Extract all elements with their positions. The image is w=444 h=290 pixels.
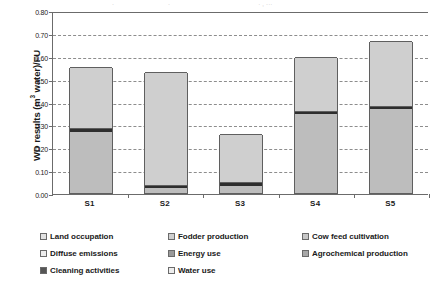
bar-segment (295, 114, 337, 193)
legend-label: Cleaning activities (50, 266, 119, 275)
legend-item[interactable]: Land occupation (40, 232, 113, 241)
legend-label: Fodder production (178, 232, 248, 241)
legend-item[interactable]: Agrochemical production (302, 249, 408, 258)
y-tick-label: 0.30 (22, 123, 48, 130)
legend-label: Energy use (178, 249, 221, 258)
x-label-s2: S2 (160, 199, 170, 208)
x-tick-mark (203, 194, 204, 198)
legend-swatch-icon (168, 250, 175, 257)
legend-item[interactable]: Cleaning activities (40, 266, 119, 275)
legend-item[interactable]: Diffuse emissions (40, 249, 118, 258)
legend-label: Agrochemical production (312, 249, 408, 258)
bar-segment (220, 182, 262, 186)
bar-slot (354, 12, 429, 194)
legend-swatch-icon (40, 250, 47, 257)
y-tick-label: 0.70 (22, 31, 48, 38)
legend-item[interactable]: Energy use (168, 249, 221, 258)
x-label-s1: S1 (85, 199, 95, 208)
x-tick-mark (279, 194, 280, 198)
legend-swatch-icon (302, 250, 309, 257)
bar-segment (295, 57, 337, 111)
legend-label: Water use (178, 266, 216, 275)
bar-s5[interactable] (369, 42, 413, 194)
chart-legend: Land occupationFodder productionCow feed… (40, 232, 430, 284)
legend-swatch-icon (168, 267, 175, 274)
bar-slot (128, 12, 203, 194)
y-axis-tick-labels: 0.000.100.200.300.400.500.600.700.80 (22, 12, 48, 195)
y-tick-label: 0.60 (22, 54, 48, 61)
bar-segment (70, 67, 112, 128)
x-tick-mark (429, 194, 430, 198)
figure-stacked-bar-chart: · · · , ··· WD results (m3 water)/FU 0.0… (0, 0, 444, 290)
bar-segment (220, 134, 262, 182)
legend-item[interactable]: Water use (168, 266, 216, 275)
x-tick-mark (354, 194, 355, 198)
bar-s2[interactable] (144, 73, 188, 194)
legend-swatch-icon (302, 233, 309, 240)
bar-slot (53, 12, 128, 194)
bar-segment (370, 109, 412, 193)
y-tick-mark (49, 195, 53, 196)
legend-swatch-icon (168, 233, 175, 240)
legend-swatch-icon (40, 267, 47, 274)
legend-label: Cow feed cultivation (312, 232, 389, 241)
bars-group (53, 12, 428, 194)
legend-label: Diffuse emissions (50, 249, 118, 258)
y-tick-label: 0.00 (22, 192, 48, 199)
bar-s3[interactable] (219, 135, 263, 194)
bar-segment (220, 186, 262, 193)
bar-segment (70, 132, 112, 193)
bar-slot (203, 12, 278, 194)
x-label-s3: S3 (235, 199, 245, 208)
y-tick-label: 0.80 (22, 9, 48, 16)
bar-segment (70, 128, 112, 132)
axes-region (52, 12, 428, 195)
y-tick-label: 0.10 (22, 169, 48, 176)
bar-slot (279, 12, 354, 194)
y-tick-label: 0.20 (22, 146, 48, 153)
bar-segment (145, 185, 187, 188)
legend-swatch-icon (40, 233, 47, 240)
bar-segment (145, 72, 187, 185)
legend-label: Land occupation (50, 232, 113, 241)
y-tick-label: 0.40 (22, 100, 48, 107)
bar-s4[interactable] (294, 58, 338, 194)
x-label-s4: S4 (310, 199, 320, 208)
bar-segment (145, 188, 187, 193)
bar-segment (370, 106, 412, 110)
x-tick-mark (128, 194, 129, 198)
bar-segment (370, 41, 412, 106)
bar-segment (295, 111, 337, 114)
legend-item[interactable]: Cow feed cultivation (302, 232, 389, 241)
x-axis-category-labels: S1S2S3S4S5 (52, 199, 428, 213)
legend-item[interactable]: Fodder production (168, 232, 248, 241)
x-label-s5: S5 (385, 199, 395, 208)
bar-s1[interactable] (69, 68, 113, 194)
y-tick-label: 0.50 (22, 77, 48, 84)
